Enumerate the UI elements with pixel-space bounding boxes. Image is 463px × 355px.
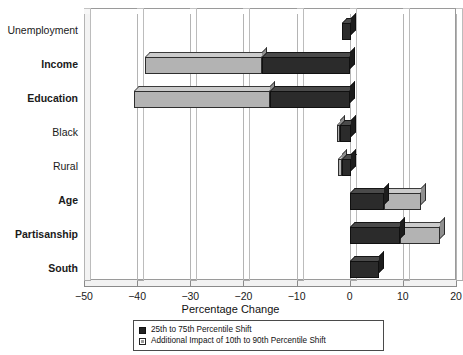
bar-segment-dark (342, 23, 351, 40)
legend-label: Additional Impact of 10th to 90th Percen… (151, 336, 326, 346)
gridline-connector (403, 8, 410, 16)
legend-swatch-light-icon (139, 338, 146, 345)
gridline (137, 14, 138, 286)
bar-segment-dark (270, 91, 350, 108)
bar-front-face (350, 261, 379, 278)
gridline (456, 14, 457, 286)
x-tick-connector (190, 280, 197, 288)
legend-item: Additional Impact of 10th to 90th Percen… (139, 336, 378, 346)
x-tick-label: 0 (347, 290, 353, 302)
bar-segment-light (384, 193, 421, 210)
bar-front-face (270, 91, 350, 108)
bar-front-face (145, 57, 262, 74)
gridline-back (90, 8, 91, 280)
x-tick-connector (243, 280, 250, 288)
bar-segment-light (400, 227, 440, 244)
x-tick-connector (137, 280, 144, 288)
gridline-connector (190, 8, 197, 16)
gridline-connector (456, 8, 463, 16)
x-axis-title: Percentage Change (0, 303, 461, 315)
legend: 25th to 75th Percentile Shift Additional… (133, 320, 384, 351)
gridline-connector (137, 8, 144, 16)
y-axis-label: South (0, 262, 78, 274)
bar-segment-light (145, 57, 262, 74)
bar-front-face (340, 125, 351, 142)
y-axis-label: Black (0, 126, 78, 138)
x-tick-connector (403, 280, 410, 288)
bar-front-face (400, 227, 440, 244)
x-tick-connector (456, 280, 463, 288)
bar-front-face (134, 91, 270, 108)
bar-segment-light (134, 91, 270, 108)
x-tick-connector (297, 280, 304, 288)
y-axis-label: Partisanship (0, 228, 78, 240)
x-tick-connector (350, 280, 357, 288)
x-tick-label: −20 (235, 290, 253, 302)
bar-segment-dark (340, 125, 351, 142)
bar-front-face (350, 227, 400, 244)
y-axis-label: Age (0, 194, 78, 206)
x-tick-label: −40 (128, 290, 146, 302)
gridline (403, 14, 404, 286)
bar-segment-dark (262, 57, 350, 74)
bar-front-face (262, 57, 350, 74)
gridline-connector (243, 8, 250, 16)
bar-front-face (342, 23, 351, 40)
gridline-back (196, 8, 197, 280)
y-axis-label: Unemployment (0, 24, 78, 36)
gridline-back (249, 8, 250, 280)
gridline-back (143, 8, 144, 280)
x-tick-label: −50 (75, 290, 93, 302)
bar-front-face (350, 193, 385, 210)
x-tick-label: 20 (450, 290, 462, 302)
y-axis-label: Income (0, 58, 78, 70)
x-tick-connector (84, 280, 91, 288)
legend-label: 25th to 75th Percentile Shift (151, 325, 252, 335)
x-tick-label: −10 (288, 290, 306, 302)
bar-front-face (342, 159, 352, 176)
y-axis-label: Education (0, 92, 78, 104)
gridline-connector (297, 8, 304, 16)
x-tick-label: −30 (181, 290, 199, 302)
y-axis-label: Rural (0, 160, 78, 172)
x-tick-label: 10 (397, 290, 409, 302)
legend-item: 25th to 75th Percentile Shift (139, 325, 378, 335)
legend-swatch-dark-icon (139, 327, 146, 334)
bar-front-face (384, 193, 421, 210)
bar-segment-dark (350, 227, 400, 244)
bar-segment-dark (350, 193, 385, 210)
gridline-connector (84, 8, 91, 16)
gridline-back (303, 8, 304, 280)
bar-segment-dark (350, 261, 379, 278)
gridline (84, 14, 85, 286)
bar-segment-dark (342, 159, 352, 176)
